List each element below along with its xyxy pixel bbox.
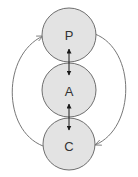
node-a-label: A — [65, 84, 74, 99]
node-c-label: C — [64, 139, 73, 154]
right-cycle-arrow — [95, 34, 126, 145]
cycle-diagram: C A P — [0, 0, 138, 177]
left-cycle-arrow — [12, 36, 43, 146]
node-p-label: P — [65, 28, 74, 43]
